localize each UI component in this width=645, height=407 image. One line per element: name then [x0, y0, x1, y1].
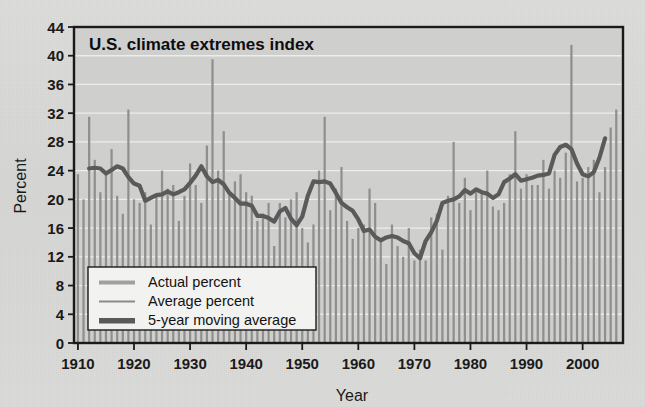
bar — [447, 196, 449, 343]
bar — [335, 189, 337, 343]
bar — [559, 178, 561, 343]
bar — [368, 189, 370, 343]
bar — [402, 257, 404, 343]
bar — [615, 110, 617, 343]
bar — [374, 203, 376, 343]
bar — [363, 225, 365, 344]
bar — [514, 131, 516, 343]
x-tick-label: 1950 — [286, 355, 319, 372]
bar — [503, 203, 505, 343]
bar — [352, 239, 354, 343]
x-axis-label: Year — [336, 387, 369, 404]
bar — [475, 189, 477, 343]
chart-title: U.S. climate extremes index — [89, 35, 314, 54]
bar — [413, 260, 415, 343]
bar — [593, 160, 595, 343]
bar — [424, 260, 426, 343]
bar — [582, 178, 584, 343]
bar — [318, 171, 320, 343]
legend: Actual percent Average percent 5-year mo… — [88, 267, 316, 330]
bar — [385, 264, 387, 343]
bar — [464, 178, 466, 343]
bar — [525, 174, 527, 343]
bar — [548, 189, 550, 343]
bar — [340, 167, 342, 343]
y-tick-label: 12 — [47, 248, 64, 265]
x-axis-ticks: 1910192019301940195019601970198019902000 — [61, 343, 599, 372]
x-tick-label: 1920 — [117, 355, 150, 372]
bar — [520, 189, 522, 343]
bar — [324, 117, 326, 343]
legend-label-moving-average: 5-year moving average — [148, 312, 296, 328]
y-tick-label: 8 — [56, 277, 64, 294]
bar — [565, 153, 567, 343]
bar — [436, 214, 438, 343]
bar — [481, 192, 483, 343]
bar — [542, 160, 544, 343]
bar — [391, 225, 393, 344]
y-tick-label: 44 — [47, 19, 64, 36]
x-tick-label: 1910 — [61, 355, 94, 372]
legend-label-average-percent: Average percent — [148, 293, 254, 309]
climate-extremes-chart: 048121620242832364044 191019201930194019… — [0, 0, 645, 407]
y-tick-label: 20 — [47, 191, 64, 208]
x-tick-label: 1990 — [510, 355, 543, 372]
chart-svg: 048121620242832364044 191019201930194019… — [0, 0, 645, 407]
legend-swatch-moving-average — [99, 318, 135, 324]
x-tick-label: 2000 — [566, 355, 599, 372]
bar — [329, 210, 331, 343]
legend-swatch-average-percent — [99, 301, 135, 303]
y-tick-label: 40 — [47, 47, 64, 64]
bar — [396, 246, 398, 343]
y-tick-label: 4 — [56, 306, 65, 323]
x-tick-label: 1960 — [342, 355, 375, 372]
bar — [497, 210, 499, 343]
bar — [587, 167, 589, 343]
bar — [419, 250, 421, 343]
bar — [509, 174, 511, 343]
bar — [453, 142, 455, 343]
bar — [537, 185, 539, 343]
bar — [346, 221, 348, 343]
bar — [82, 199, 84, 343]
y-tick-label: 0 — [56, 335, 64, 352]
x-tick-label: 1970 — [398, 355, 431, 372]
bar — [492, 207, 494, 343]
y-tick-label: 32 — [47, 105, 64, 122]
bar — [380, 239, 382, 343]
bar — [610, 128, 612, 343]
bar — [458, 203, 460, 343]
bar — [598, 192, 600, 343]
bar — [469, 210, 471, 343]
bar — [531, 185, 533, 343]
y-tick-label: 16 — [47, 220, 64, 237]
y-axis-label: Percent — [12, 158, 29, 214]
x-tick-label: 1980 — [454, 355, 487, 372]
bar — [553, 171, 555, 343]
y-tick-label: 24 — [47, 162, 64, 179]
bar — [357, 228, 359, 343]
y-tick-label: 28 — [47, 133, 64, 150]
x-tick-label: 1940 — [229, 355, 262, 372]
bar — [604, 167, 606, 343]
y-axis-ticks: 048121620242832364044 — [47, 19, 74, 352]
bar — [441, 250, 443, 343]
legend-swatch-actual-percent — [99, 281, 135, 285]
legend-label-actual-percent: Actual percent — [148, 274, 241, 290]
bar — [576, 181, 578, 343]
x-tick-label: 1930 — [173, 355, 206, 372]
y-tick-label: 36 — [47, 76, 64, 93]
bar — [570, 45, 572, 343]
bar — [77, 174, 79, 343]
